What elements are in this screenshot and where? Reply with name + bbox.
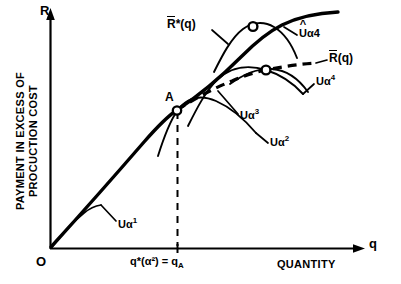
curve-label-u-alpha-4: Uα4 [316,76,335,87]
marker-upper-tangency [249,22,258,31]
u-alpha-1-base: Uα [118,218,133,230]
u-hat-alpha-4-rest: α4 [307,27,320,39]
curve-u-alpha-1 [52,205,101,247]
curve-label-u-alpha-3: Uα3 [240,110,259,121]
x-tick-label-subscript: A [178,261,184,270]
leader-r-star [212,30,228,44]
u-alpha-4-base: Uα [316,75,331,87]
u-alpha-2-base: Uα [270,136,285,148]
curve-r-star [51,12,338,247]
axes-group [46,8,365,253]
y-axis-title-line-1: PAYMENT IN EXCESS OF [14,72,26,210]
u-alpha-2-exp: 2 [285,134,289,143]
r-star-rest: *(q) [176,17,196,31]
x-axis-symbol: q [369,237,377,250]
marker-point-a [173,106,181,114]
origin-label: O [36,255,46,268]
diagram-canvas [0,0,401,284]
x-axis-arrowhead [353,244,365,253]
r-bar-overbar-head: R [329,52,338,64]
figure-container: R q PAYMENT IN EXCESS OF PROCUCTION COST… [0,0,401,284]
curve-label-r-star: R*(q) [167,18,196,30]
u-alpha-3-exp: 3 [255,107,259,116]
leader-u-alpha-1 [101,205,116,221]
marker-lower-tangency [262,66,271,75]
curve-label-u-alpha-1: Uα1 [118,219,137,230]
y-axis-title-line-2: PROCUCTION COST [27,85,39,197]
x-axis-title: QUANTITY [277,259,336,270]
x-tick-label-qa: q*(α²) = qA [130,256,184,267]
u-alpha-4-exp: 4 [331,73,335,82]
curve-label-u-hat-alpha-4: Uα4 [299,28,320,39]
r-star-overbar-head: R [167,18,176,30]
r-bar-rest: (q) [338,51,353,65]
curve-u-alpha-2 [158,98,256,156]
leader-r-bar [316,60,327,63]
u-hat-alpha-4-head: U [299,28,307,39]
leader-u-hat-alpha-4 [284,27,297,35]
u-alpha-3-base: Uα [240,109,255,121]
u-alpha-1-exp: 1 [133,216,137,225]
point-a-label: A [165,91,174,103]
leader-u-alpha-2 [256,133,268,143]
x-tick-label-main: q*(α²) = q [130,255,178,267]
curve-label-r-bar: R(q) [329,52,353,64]
y-axis-title: PAYMENT IN EXCESS OF PROCUCTION COST [14,48,48,234]
curve-label-u-alpha-2: Uα2 [270,137,289,148]
y-axis-symbol: R [40,4,49,17]
